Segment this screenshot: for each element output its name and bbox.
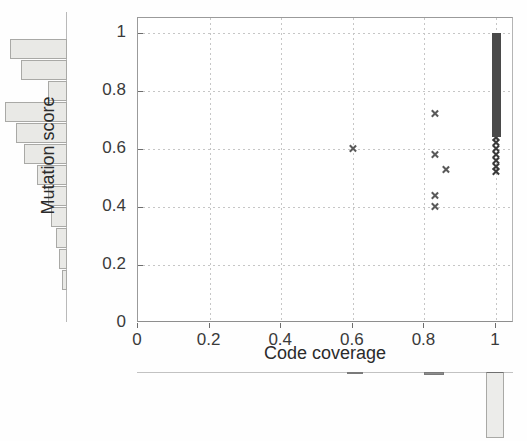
y-tick-label-0.4: 0.4 [102, 196, 126, 216]
y-axis-ticks: 00.20.40.60.81 [60, 17, 132, 322]
gridline-horizontal-1 [138, 33, 512, 34]
scatter-point [348, 144, 357, 153]
x-tick-mark [137, 323, 138, 328]
bottom-hist-bar [486, 372, 504, 438]
y-tick-label-0.6: 0.6 [102, 138, 126, 158]
plot-box [137, 17, 513, 322]
bottom-hist-baseline [137, 372, 513, 373]
x-axis-title: Code coverage [137, 343, 513, 364]
x-tick-mark [352, 323, 353, 328]
gridline-vertical-0.8 [424, 18, 425, 321]
y-tick-mark [138, 207, 143, 208]
gridline-horizontal-0.4 [138, 207, 512, 208]
bottom-hist-bar [424, 372, 444, 375]
scatter-dense-column [492, 33, 501, 138]
x-tick-mark [495, 323, 496, 328]
y-tick-label-0.8: 0.8 [102, 80, 126, 100]
gridline-horizontal-0.8 [138, 91, 512, 92]
y-tick-mark [138, 33, 143, 34]
y-tick-mark [138, 265, 143, 266]
y-tick-label-0: 0 [117, 312, 126, 332]
y-tick-label-0.2: 0.2 [102, 254, 126, 274]
left-hist-bar [10, 39, 67, 59]
bottom-hist-bar [347, 372, 363, 374]
x-tick-mark [209, 323, 210, 328]
scatter-point [431, 109, 440, 118]
scatter-point [431, 191, 440, 200]
gridline-horizontal-0.6 [138, 149, 512, 150]
scatter-point [431, 202, 440, 211]
gridline-vertical-0.2 [210, 18, 211, 321]
scatter-point [441, 165, 450, 174]
scatter-point [431, 150, 440, 159]
gridline-vertical-0.4 [281, 18, 282, 321]
y-tick-mark [138, 91, 143, 92]
gridline-vertical-0.6 [353, 18, 354, 321]
figure-scatter-with-marginal-histograms: 00.20.40.60.81 00.20.40.60.81 Code cover… [0, 0, 527, 441]
y-tick-label-1: 1 [117, 22, 126, 42]
marginal-histogram-code-coverage [137, 372, 513, 441]
x-tick-mark [423, 323, 424, 328]
y-axis-title: Mutation score [38, 61, 59, 251]
y-tick-mark [138, 149, 143, 150]
gridline-horizontal-0.2 [138, 265, 512, 266]
main-plot-panel [137, 17, 513, 322]
x-tick-mark [280, 323, 281, 328]
